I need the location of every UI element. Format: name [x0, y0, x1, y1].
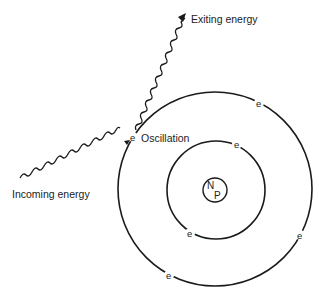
electron-outer-right: e — [295, 230, 305, 241]
nucleus-label-p: P — [214, 190, 221, 201]
electron-oscillating: e — [128, 132, 138, 143]
incoming-energy-wave — [20, 127, 130, 178]
incoming-energy-label: Incoming energy — [12, 188, 90, 200]
electron-outer-top-right: e — [254, 98, 264, 109]
exiting-wave-path — [135, 18, 185, 130]
incoming-wave-path — [20, 127, 120, 178]
nucleus: N P — [203, 178, 227, 202]
exiting-energy-wave — [135, 13, 186, 130]
oscillation-label: Oscillation — [141, 132, 190, 144]
electron-label: e — [166, 270, 171, 281]
outer-orbit — [118, 92, 312, 286]
electron-label: e — [130, 132, 135, 143]
electron-label: e — [256, 98, 261, 109]
electron-label: e — [187, 228, 192, 239]
electron-label: e — [297, 230, 302, 241]
electron-label: e — [234, 139, 239, 150]
exiting-energy-label: Exiting energy — [191, 13, 258, 25]
electron-outer-bottom-left: e — [164, 270, 174, 281]
exiting-arrowhead-icon — [178, 13, 186, 22]
atom-energy-diagram: N P e e e e e e — [0, 0, 319, 293]
electron-inner-bottom: e — [185, 228, 195, 239]
